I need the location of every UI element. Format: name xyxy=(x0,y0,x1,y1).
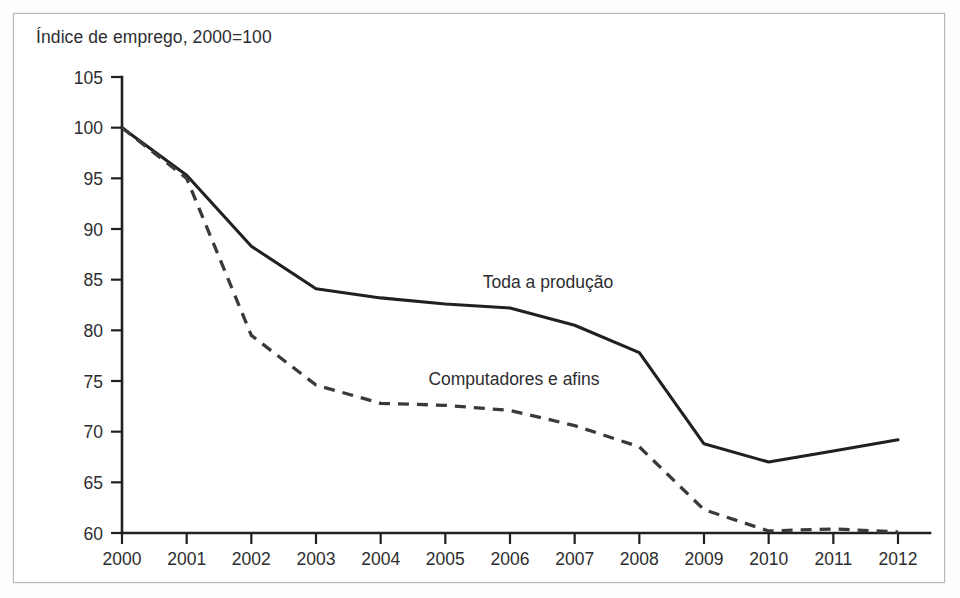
y-tick-label: 60 xyxy=(84,524,104,544)
chart-figure: Índice de emprego, 2000=100 606570758085… xyxy=(0,0,960,598)
x-tick-label: 2001 xyxy=(167,549,206,569)
x-tick-label: 2002 xyxy=(232,549,271,569)
series-annotation-computadores-e-afins: Computadores e afins xyxy=(428,369,599,389)
x-tick-label: 2010 xyxy=(749,549,788,569)
y-tick-label: 70 xyxy=(84,422,104,442)
x-tick-label: 2003 xyxy=(297,549,336,569)
y-tick-label: 85 xyxy=(84,270,103,290)
x-tick-label: 2005 xyxy=(426,549,465,569)
y-tick-label: 90 xyxy=(84,220,104,240)
y-tick-label: 75 xyxy=(84,372,103,392)
x-tick-label: 2012 xyxy=(879,549,918,569)
x-tick-label: 2007 xyxy=(555,549,594,569)
series-annotation-toda-a-producao: Toda a produção xyxy=(483,272,613,292)
y-tick-label: 100 xyxy=(74,118,103,138)
y-tick-label: 105 xyxy=(74,68,103,88)
plot-canvas: 6065707580859095100105 20002001200220032… xyxy=(0,0,960,598)
x-tick-label: 2011 xyxy=(815,549,853,569)
y-axis-ticks: 6065707580859095100105 xyxy=(74,68,122,544)
x-axis-ticks: 2000200120022003200420052006200720082009… xyxy=(103,533,918,569)
x-tick-label: 2004 xyxy=(361,549,400,569)
y-tick-label: 65 xyxy=(84,473,103,493)
series-line-computadores-e-afins xyxy=(122,128,898,532)
y-tick-label: 80 xyxy=(84,321,104,341)
x-tick-label: 2009 xyxy=(685,549,724,569)
series-line-toda-a-producao xyxy=(122,128,898,462)
y-tick-label: 95 xyxy=(84,169,103,189)
x-tick-label: 2000 xyxy=(103,549,142,569)
x-tick-label: 2008 xyxy=(620,549,659,569)
x-tick-label: 2006 xyxy=(491,549,530,569)
